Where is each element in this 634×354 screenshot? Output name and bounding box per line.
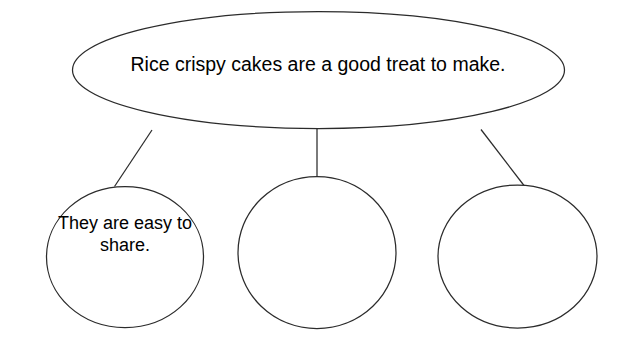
connector-main-to-branch-three <box>481 130 524 186</box>
main-idea-ellipse[interactable] <box>73 12 565 129</box>
diagram-canvas: Rice crispy cakes are a good treat to ma… <box>0 0 634 354</box>
branch-two-circle[interactable] <box>238 177 396 329</box>
concept-map-diagram <box>0 0 634 354</box>
branch-three-circle[interactable] <box>438 185 597 328</box>
branch-one-circle[interactable] <box>47 187 204 328</box>
connector-main-to-branch-one <box>115 130 153 187</box>
